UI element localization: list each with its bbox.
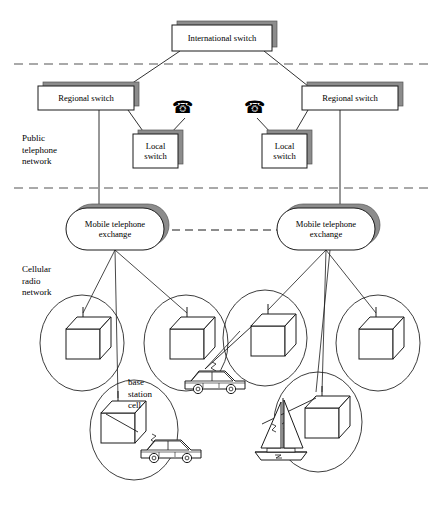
base-station-cell-3 bbox=[251, 304, 296, 356]
base-station-cell-2 bbox=[170, 307, 215, 359]
base-station-cell-4 bbox=[359, 307, 404, 359]
base-station-cell-6 bbox=[305, 386, 350, 438]
base-station-cell-1 bbox=[66, 307, 111, 359]
international-switch-label: International switch bbox=[172, 25, 272, 51]
telephone-icon-left: ☎ bbox=[172, 99, 193, 116]
cellular-radio-network-label: Cellular radio network bbox=[22, 264, 52, 299]
sailboat bbox=[255, 398, 307, 460]
car-upper bbox=[185, 371, 245, 394]
mobile-exchange-left-label: Mobile telephone exchange bbox=[66, 208, 164, 250]
public-telephone-network-label: Public telephone network bbox=[22, 133, 57, 168]
network-diagram-canvas bbox=[0, 0, 440, 511]
regional-switch-right-label: Regional switch bbox=[302, 86, 398, 110]
trunk-lines bbox=[99, 51, 340, 208]
car-lower bbox=[141, 440, 201, 463]
telephone-icon-right: ☎ bbox=[244, 99, 265, 116]
local-switch-left-label: Local switch bbox=[133, 134, 178, 168]
local-switch-right-label: Local switch bbox=[262, 134, 307, 168]
mobile-exchange-right-label: Mobile telephone exchange bbox=[277, 208, 375, 250]
regional-switch-left-label: Regional switch bbox=[38, 86, 134, 110]
base-station-cell-label: base station cell bbox=[128, 377, 152, 412]
